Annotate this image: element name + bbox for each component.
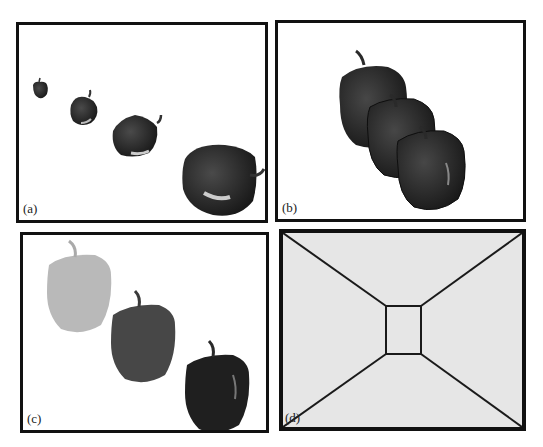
pepper-overlap-illustration (278, 23, 523, 219)
panel-label: (d) (285, 410, 300, 426)
corridor-perspective-drawing (283, 233, 522, 427)
panel-d-linear-perspective: (d) (279, 229, 526, 431)
panel-label: (a) (23, 201, 37, 217)
panel-c-shading-cue: (c) (20, 232, 269, 433)
pepper-shading-illustration (23, 235, 266, 430)
panel-label: (b) (282, 200, 297, 216)
panel-b-overlap-cue: (b) (275, 20, 526, 222)
panel-label: (c) (27, 411, 41, 427)
panel-a-size-cue: (a) (16, 22, 268, 223)
pepper-size-illustration (19, 25, 265, 220)
